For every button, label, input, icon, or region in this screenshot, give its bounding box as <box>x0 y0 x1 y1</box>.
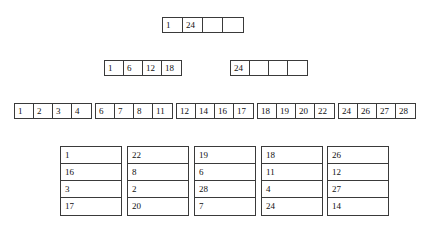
node-cell: 28 <box>396 104 415 118</box>
bucket-slot: 19 <box>195 147 255 164</box>
bucket-slot: 27 <box>328 181 388 198</box>
node-cell: 26 <box>358 104 377 118</box>
bucket-slot: 20 <box>128 198 188 215</box>
leaf-node-4: 18192022 <box>257 103 335 119</box>
bucket-slot: 17 <box>61 198 121 215</box>
bucket-slot: 26 <box>328 147 388 164</box>
leaf-node-5: 24262728 <box>338 103 416 119</box>
node-cell: 4 <box>72 104 91 118</box>
node-cell: 3 <box>53 104 72 118</box>
bucket-slot: 18 <box>262 147 322 164</box>
leaf-node-2: 67811 <box>95 103 173 119</box>
node-cell: 6 <box>96 104 115 118</box>
bucket-slot: 28 <box>195 181 255 198</box>
node-cell: 1 <box>15 104 34 118</box>
bucket-slot: 2 <box>128 181 188 198</box>
node-cell: 18 <box>162 61 181 75</box>
leaf-node-1: 1234 <box>14 103 92 119</box>
bucket-3: 196287 <box>194 146 256 216</box>
node-cell: 7 <box>115 104 134 118</box>
bucket-slot: 14 <box>328 198 388 215</box>
bucket-slot: 22 <box>128 147 188 164</box>
bucket-4: 1811424 <box>261 146 323 216</box>
bucket-slot: 6 <box>195 164 255 181</box>
bucket-5: 26122714 <box>327 146 389 216</box>
node-cell: 1 <box>163 18 183 32</box>
node-cell: 27 <box>377 104 396 118</box>
node-cell: 8 <box>134 104 153 118</box>
node-cell-empty <box>269 61 288 75</box>
node-cell: 14 <box>196 104 215 118</box>
node-cell: 24 <box>231 61 250 75</box>
bucket-slot: 4 <box>262 181 322 198</box>
node-cell: 19 <box>277 104 296 118</box>
leaf-node-3: 12141617 <box>176 103 254 119</box>
node-cell: 18 <box>258 104 277 118</box>
node-cell: 24 <box>339 104 358 118</box>
bucket-slot: 1 <box>61 147 121 164</box>
node-cell-empty <box>250 61 269 75</box>
node-cell: 1 <box>105 61 124 75</box>
node-cell: 12 <box>143 61 162 75</box>
bucket-slot: 8 <box>128 164 188 181</box>
level2-node-right: 24 <box>230 60 308 76</box>
node-cell: 16 <box>215 104 234 118</box>
bucket-slot: 7 <box>195 198 255 215</box>
bucket-slot: 16 <box>61 164 121 181</box>
node-cell: 6 <box>124 61 143 75</box>
node-cell-empty <box>223 18 243 32</box>
node-cell: 11 <box>153 104 172 118</box>
node-cell: 17 <box>234 104 253 118</box>
index-structure-diagram: 1241612182412346781112141617181920222426… <box>0 0 430 230</box>
root-node: 124 <box>162 17 244 33</box>
node-cell-empty <box>288 61 307 75</box>
bucket-1: 116317 <box>60 146 122 216</box>
bucket-slot: 12 <box>328 164 388 181</box>
node-cell: 22 <box>315 104 334 118</box>
node-cell: 2 <box>34 104 53 118</box>
bucket-slot: 11 <box>262 164 322 181</box>
bucket-slot: 3 <box>61 181 121 198</box>
level2-node-left: 161218 <box>104 60 182 76</box>
node-cell: 20 <box>296 104 315 118</box>
bucket-slot: 24 <box>262 198 322 215</box>
bucket-2: 228220 <box>127 146 189 216</box>
node-cell-empty <box>203 18 223 32</box>
node-cell: 24 <box>183 18 203 32</box>
node-cell: 12 <box>177 104 196 118</box>
